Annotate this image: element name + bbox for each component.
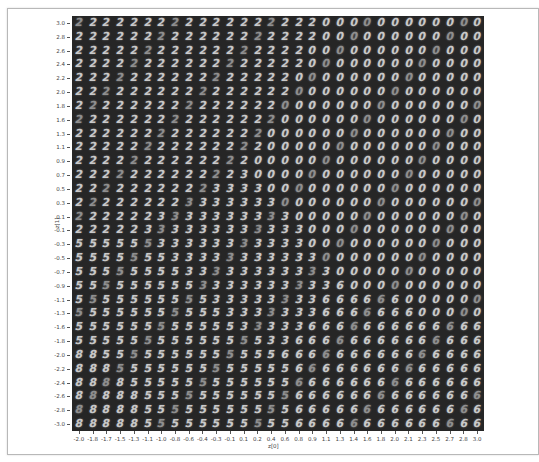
y-tick-label: 2.8 bbox=[40, 30, 70, 44]
x-tick-label: -0.3 bbox=[209, 431, 223, 443]
digit-cell: 6 bbox=[469, 362, 484, 376]
x-tick-label: 2.3 bbox=[415, 431, 429, 443]
x-tick-label: 2.7 bbox=[443, 431, 457, 443]
digit-cell: 0 bbox=[469, 210, 484, 224]
x-tick-label: -0.1 bbox=[223, 431, 237, 443]
digit-cell: 0 bbox=[469, 71, 484, 85]
y-tick-label: -0.5 bbox=[40, 251, 70, 265]
digit-cell: 0 bbox=[469, 196, 484, 210]
x-axis-ticks: -2.0-1.8-1.7-1.5-1.3-1.1-1.0-0.8-0.6-0.4… bbox=[72, 431, 484, 443]
digit-cell: 6 bbox=[469, 389, 484, 403]
y-tick-label: -3.0 bbox=[40, 417, 70, 431]
digit-cell: 0 bbox=[469, 44, 484, 58]
y-tick-label: 2.4 bbox=[40, 57, 70, 71]
y-tick-label: 1.3 bbox=[40, 127, 70, 141]
x-tick-label: -1.0 bbox=[154, 431, 168, 443]
digit-cell: 0 bbox=[469, 279, 484, 293]
digit-cell: 0 bbox=[469, 223, 484, 237]
digit-cell: 0 bbox=[469, 16, 484, 30]
digit-cell: 0 bbox=[469, 99, 484, 113]
x-tick-label: 0.9 bbox=[305, 431, 319, 443]
x-tick-label: -1.3 bbox=[127, 431, 141, 443]
x-tick-label: 2.5 bbox=[429, 431, 443, 443]
y-tick-label: -2.4 bbox=[40, 376, 70, 390]
digit-cell: 0 bbox=[469, 306, 484, 320]
x-tick-label: -1.5 bbox=[113, 431, 127, 443]
digit-cell: 0 bbox=[469, 168, 484, 182]
digit-cell: 0 bbox=[469, 127, 484, 141]
digit-cell: 0 bbox=[469, 30, 484, 44]
x-tick-label: -2.0 bbox=[72, 431, 86, 443]
y-tick-label: 0.3 bbox=[40, 196, 70, 210]
y-tick-label: 1.8 bbox=[40, 99, 70, 113]
x-tick-label: 1.3 bbox=[333, 431, 347, 443]
x-tick-label: 0.2 bbox=[251, 431, 265, 443]
y-tick-label: -2.8 bbox=[40, 403, 70, 417]
y-tick-label: 2.2 bbox=[40, 71, 70, 85]
digit-cell: 6 bbox=[469, 376, 484, 390]
y-tick-label: -1.1 bbox=[40, 293, 70, 307]
y-tick-label: -0.9 bbox=[40, 279, 70, 293]
y-tick-label: -0.3 bbox=[40, 237, 70, 251]
y-axis-title: z[1] bbox=[54, 218, 60, 229]
x-tick-label: 2.0 bbox=[388, 431, 402, 443]
x-tick-label: -1.1 bbox=[141, 431, 155, 443]
x-tick-label: -0.6 bbox=[182, 431, 196, 443]
y-tick-label: -2.2 bbox=[40, 362, 70, 376]
y-tick-label: -1.8 bbox=[40, 334, 70, 348]
x-tick-label: 3.0 bbox=[470, 431, 484, 443]
digit-cell: 6 bbox=[469, 417, 484, 431]
x-tick-label: 1.6 bbox=[360, 431, 374, 443]
x-tick-label: 2.1 bbox=[402, 431, 416, 443]
y-tick-label: 1.6 bbox=[40, 113, 70, 127]
digit-cell: 0 bbox=[469, 182, 484, 196]
x-tick-label: 1.8 bbox=[374, 431, 388, 443]
x-tick-label: 0.1 bbox=[237, 431, 251, 443]
digit-cell: 0 bbox=[469, 154, 484, 168]
x-tick-label: 0.6 bbox=[278, 431, 292, 443]
y-tick-label: -1.3 bbox=[40, 306, 70, 320]
x-tick-label: -1.8 bbox=[86, 431, 100, 443]
x-tick-label: 0.8 bbox=[292, 431, 306, 443]
y-tick-label: 3.0 bbox=[40, 16, 70, 30]
x-tick-label: 0.4 bbox=[264, 431, 278, 443]
digit-cell: 6 bbox=[469, 348, 484, 362]
digit-cell: 0 bbox=[469, 237, 484, 251]
x-tick-label: -0.8 bbox=[168, 431, 182, 443]
y-tick-label: 0.5 bbox=[40, 182, 70, 196]
y-tick-label: 0.7 bbox=[40, 168, 70, 182]
x-tick-label: 1.4 bbox=[347, 431, 361, 443]
digit-cell: 0 bbox=[469, 251, 484, 265]
x-tick-label: -1.7 bbox=[99, 431, 113, 443]
y-tick-label: -2.6 bbox=[40, 389, 70, 403]
y-tick-label: 0.9 bbox=[40, 154, 70, 168]
latent-space-grid: 2222222222222222220000000000002222222222… bbox=[72, 16, 484, 431]
digit-cell: 6 bbox=[469, 403, 484, 417]
y-tick-label: -0.7 bbox=[40, 265, 70, 279]
x-tick-label: -0.4 bbox=[196, 431, 210, 443]
digit-cell: 0 bbox=[469, 140, 484, 154]
y-tick-label: -2.0 bbox=[40, 348, 70, 362]
x-tick-label: 2.8 bbox=[457, 431, 471, 443]
x-axis-title: z[0] bbox=[268, 443, 279, 449]
digit-cell: 6 bbox=[469, 334, 484, 348]
y-tick-label: -1.6 bbox=[40, 320, 70, 334]
y-tick-label: 1.1 bbox=[40, 140, 70, 154]
digit-cell: 0 bbox=[469, 57, 484, 71]
digit-cell: 6 bbox=[469, 320, 484, 334]
x-tick-label: 1.1 bbox=[319, 431, 333, 443]
digit-cell: 0 bbox=[469, 265, 484, 279]
digit-cell: 0 bbox=[469, 85, 484, 99]
digit-cell: 0 bbox=[469, 113, 484, 127]
y-tick-label: 2.6 bbox=[40, 44, 70, 58]
digit-cell: 0 bbox=[469, 293, 484, 307]
y-tick-label: 2.0 bbox=[40, 85, 70, 99]
